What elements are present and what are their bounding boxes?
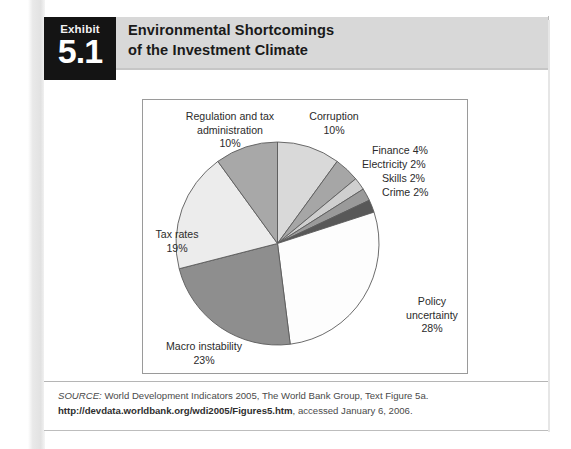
pie-label-corruption: Corruption 10% [296, 110, 372, 137]
pie-label-policy-value: 28% [396, 322, 468, 336]
pie-label-policy-uncertainty: Policy uncertainty 28% [396, 295, 468, 336]
pie-label-tax-rates: Tax rates 19% [144, 228, 210, 255]
page-gutter-shadow [28, 0, 45, 449]
pie-label-regulation-line1: Regulation and tax [168, 110, 292, 124]
source-note: SOURCE: World Development Indicators 200… [58, 389, 534, 418]
pie-label-electricity: Electricity 2% [362, 158, 464, 172]
pie-label-policy-line1: Policy [396, 295, 468, 309]
exhibit-number-tab: Exhibit 5.1 [44, 17, 116, 80]
pie-label-macro-value: 23% [146, 354, 262, 368]
exhibit-tab-number: 5.1 [44, 34, 116, 68]
exhibit-title-line1: Environmental Shortcomings [128, 22, 334, 38]
source-url-part1[interactable]: http://devdata [58, 405, 121, 416]
pie-label-corruption-value: 10% [296, 124, 372, 138]
source-citation-text: World Development Indicators 2005, The W… [102, 390, 429, 401]
pie-label-crime: Crime 2% [382, 186, 464, 200]
exhibit-title: Environmental Shortcomings of the Invest… [128, 21, 528, 60]
source-url-part2[interactable]: .worldbank.org/wdi2005/Figures5.htm [121, 405, 293, 416]
pie-label-macro-instability: Macro instability 23% [146, 340, 262, 367]
pie-label-policy-line2: uncertainty [396, 309, 468, 323]
source-accessed-text: , accessed January 6, 2006. [293, 405, 413, 416]
pie-label-macro-name: Macro instability [146, 340, 262, 354]
pie-label-regulation-line2: administration [168, 124, 292, 138]
exhibit-page: Exhibit 5.1 Environmental Shortcomings o… [0, 0, 571, 449]
pie-label-tax-name: Tax rates [144, 228, 210, 242]
source-label: SOURCE: [58, 390, 102, 401]
pie-label-tax-value: 19% [144, 242, 210, 256]
source-divider [44, 381, 548, 382]
pie-label-finance: Finance 4% [372, 144, 464, 158]
pie-label-corruption-name: Corruption [296, 110, 372, 124]
pie-label-regulation-and-tax-administration: Regulation and tax administration 10% [168, 110, 292, 151]
pie-label-regulation-value: 10% [168, 137, 292, 151]
pie-label-skills: Skills 2% [382, 172, 464, 186]
exhibit-title-line2: of the Investment Climate [128, 41, 528, 61]
